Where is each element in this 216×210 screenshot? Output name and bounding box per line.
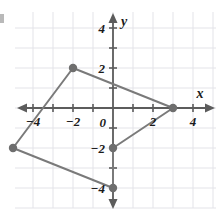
svg-text:2: 2 bbox=[98, 61, 106, 76]
svg-text:0: 0 bbox=[100, 115, 107, 130]
svg-text:4: 4 bbox=[98, 21, 106, 36]
svg-text:−4: −4 bbox=[26, 114, 41, 129]
svg-text:−4: −4 bbox=[91, 181, 106, 196]
axis-lines bbox=[17, 13, 215, 209]
grid-lines bbox=[15, 12, 216, 208]
svg-text:4: 4 bbox=[189, 114, 197, 129]
coordinate-plane-svg: −4−22442−2−40xy bbox=[0, 0, 216, 210]
svg-text:y: y bbox=[119, 14, 128, 29]
svg-text:−2: −2 bbox=[66, 114, 81, 129]
svg-text:2: 2 bbox=[149, 114, 157, 129]
svg-text:x: x bbox=[196, 86, 204, 101]
coordinate-plane-figure: −4−22442−2−40xy bbox=[0, 0, 216, 210]
svg-text:−2: −2 bbox=[91, 141, 106, 156]
